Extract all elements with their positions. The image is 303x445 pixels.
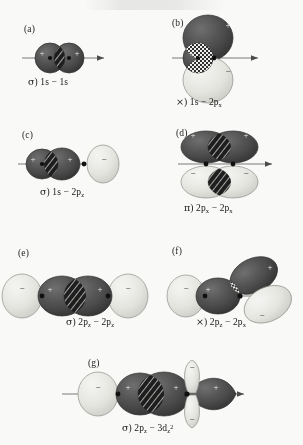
svg-text:+: +	[225, 20, 230, 30]
svg-text:−: −	[189, 362, 194, 372]
caption-b: ×) 1s − 2px	[176, 96, 222, 108]
caption-d-left: 2p	[196, 203, 206, 213]
svg-text:+: +	[173, 382, 178, 392]
caption-f-right-sub: x	[243, 321, 246, 328]
svg-text:−: −	[183, 283, 188, 293]
caption-a: σ) 1s − 1s	[28, 76, 68, 87]
caption-e-right: 2p	[102, 317, 112, 327]
svg-text:+: +	[97, 284, 102, 294]
svg-text:+: +	[267, 262, 272, 272]
svg-text:−: −	[19, 283, 24, 293]
svg-text:+: +	[67, 154, 72, 164]
svg-text:−: −	[125, 283, 130, 293]
panel-c: + + −	[18, 145, 119, 183]
caption-e: σ) 2pz − 2pz	[66, 316, 114, 328]
caption-b-right-sub: x	[219, 101, 222, 108]
panel-tag-b: (b)	[172, 18, 184, 28]
panel-g: − + + + − −	[62, 360, 244, 428]
panel-tag-f: (f)	[172, 246, 182, 256]
caption-d: π) 2px − 2px	[184, 202, 233, 214]
svg-text:+: +	[39, 48, 44, 58]
caption-d-right-sub: x	[229, 207, 232, 214]
svg-text:−: −	[225, 66, 230, 76]
caption-c: σ) 1s − 2pz	[40, 186, 84, 198]
svg-text:+: +	[190, 130, 195, 140]
panel-a: + +	[22, 43, 104, 73]
svg-text:−: −	[101, 154, 106, 164]
svg-text:+: +	[213, 382, 218, 392]
caption-g-right-sup: 2	[170, 423, 173, 430]
caption-g-left: 2p	[134, 423, 144, 433]
orbital-overlap-figure: + + + + −	[0, 0, 303, 445]
panel-tag-a: (a)	[24, 24, 35, 34]
caption-d-right: 2p	[220, 203, 230, 213]
svg-text:−: −	[95, 382, 100, 392]
caption-b-right: 2p	[209, 97, 219, 107]
svg-text:+: +	[47, 284, 52, 294]
scan-artifact	[0, 0, 303, 10]
svg-text:+: +	[30, 154, 35, 164]
svg-text:−: −	[259, 310, 264, 320]
caption-f-left: 2p	[210, 317, 220, 327]
caption-g-symbol: σ	[122, 422, 129, 433]
svg-text:−: −	[190, 168, 195, 178]
svg-text:+: +	[243, 130, 248, 140]
panel-d: + + − −	[178, 130, 272, 198]
panel-tag-g: (g)	[88, 358, 100, 368]
panel-tag-d: (d)	[176, 128, 188, 138]
caption-c-right-sub: z	[81, 191, 84, 198]
panel-tag-c: (c)	[22, 130, 33, 140]
caption-f: ×) 2pz − 2px	[196, 316, 246, 328]
caption-g-right: 3d	[158, 423, 168, 433]
caption-e-left: 2p	[78, 317, 88, 327]
svg-text:+: +	[125, 382, 130, 392]
panel-b: + + −	[172, 15, 258, 103]
svg-text:−: −	[243, 168, 248, 178]
svg-text:+: +	[74, 48, 79, 58]
figure-canvas: + + + + −	[0, 0, 303, 445]
svg-text:+: +	[205, 284, 210, 294]
caption-e-symbol: σ	[66, 316, 73, 327]
panel-e: − − + +	[2, 274, 148, 318]
caption-f-symbol: ×	[196, 316, 204, 327]
caption-a-symbol: σ	[28, 76, 35, 87]
svg-text:+: +	[188, 48, 193, 58]
caption-a-left: 1s	[40, 77, 49, 87]
caption-c-symbol: σ	[40, 186, 47, 197]
panel-tag-e: (e)	[18, 248, 29, 258]
caption-c-left: 1s	[52, 187, 61, 197]
caption-g: σ) 2pz − 3dz2	[122, 422, 173, 434]
caption-b-symbol: ×	[176, 96, 184, 107]
svg-text:−: −	[189, 414, 194, 424]
caption-f-right: 2p	[233, 317, 243, 327]
caption-e-right-sub: z	[111, 321, 114, 328]
caption-a-right: 1s	[59, 77, 68, 87]
caption-c-right: 2p	[71, 187, 81, 197]
